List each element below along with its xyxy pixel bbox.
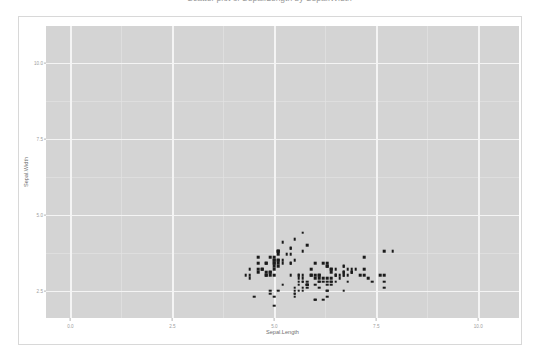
data-point bbox=[289, 247, 292, 250]
data-point bbox=[346, 280, 349, 283]
data-point bbox=[245, 274, 248, 277]
data-point bbox=[293, 286, 296, 289]
gridline-major-vertical bbox=[376, 26, 377, 318]
data-point bbox=[334, 280, 337, 283]
data-point bbox=[277, 289, 280, 292]
chart-title: Scatter plot of Sepal.Length by Sepal.Wi… bbox=[0, 0, 539, 7]
data-point bbox=[322, 298, 325, 301]
data-point bbox=[363, 256, 366, 259]
x-tick-mark bbox=[376, 318, 377, 321]
data-point bbox=[269, 289, 272, 292]
data-point bbox=[326, 289, 329, 292]
data-point bbox=[257, 271, 260, 274]
data-point bbox=[293, 259, 296, 262]
gridline-minor-horizontal bbox=[46, 101, 519, 102]
data-point bbox=[342, 289, 345, 292]
data-point bbox=[298, 280, 301, 283]
gridline-major-horizontal bbox=[46, 215, 519, 216]
data-point bbox=[298, 283, 301, 286]
y-tick-label: 10.0 bbox=[34, 60, 43, 65]
x-tick-mark bbox=[478, 318, 479, 321]
data-point bbox=[253, 295, 256, 298]
data-point bbox=[302, 232, 305, 235]
data-point bbox=[346, 268, 349, 271]
data-point bbox=[326, 262, 329, 265]
data-point bbox=[306, 286, 309, 289]
data-point bbox=[330, 280, 333, 283]
data-point bbox=[269, 292, 272, 295]
gridline-minor-horizontal bbox=[46, 253, 519, 254]
data-point bbox=[322, 262, 325, 265]
data-point bbox=[334, 274, 337, 277]
data-point bbox=[257, 262, 260, 265]
y-tick-label: 5.0 bbox=[37, 212, 43, 217]
data-point bbox=[273, 305, 276, 308]
data-point bbox=[338, 274, 341, 277]
data-point bbox=[273, 274, 276, 277]
x-axis-label: Sepal.Length bbox=[46, 329, 519, 335]
gridline-minor-vertical bbox=[427, 26, 428, 318]
data-point bbox=[273, 268, 276, 271]
data-point bbox=[293, 292, 296, 295]
data-point bbox=[314, 298, 317, 301]
gridline-major-horizontal bbox=[46, 291, 519, 292]
data-point bbox=[338, 277, 341, 280]
data-point bbox=[289, 262, 292, 265]
data-point bbox=[285, 253, 288, 256]
data-point bbox=[269, 274, 272, 277]
data-point bbox=[302, 280, 305, 283]
gridline-major-vertical bbox=[478, 26, 479, 318]
data-point bbox=[306, 244, 309, 247]
gridline-major-horizontal bbox=[46, 63, 519, 64]
data-point bbox=[383, 250, 386, 253]
y-axis-label: Sepal.Width bbox=[20, 26, 32, 318]
data-point bbox=[289, 274, 292, 277]
data-point bbox=[293, 238, 296, 241]
data-point bbox=[261, 268, 264, 271]
gridline-minor-horizontal bbox=[46, 177, 519, 178]
data-point bbox=[346, 274, 349, 277]
data-point bbox=[314, 283, 317, 286]
data-point bbox=[334, 268, 337, 271]
data-point bbox=[355, 268, 358, 271]
y-tick-mark bbox=[44, 214, 47, 215]
data-point bbox=[273, 295, 276, 298]
data-point bbox=[293, 295, 296, 298]
data-point bbox=[273, 259, 276, 262]
data-point bbox=[371, 280, 374, 283]
data-point bbox=[318, 286, 321, 289]
plot-panel bbox=[46, 26, 519, 318]
data-point bbox=[314, 262, 317, 265]
data-point bbox=[293, 289, 296, 292]
data-point bbox=[302, 250, 305, 253]
data-point bbox=[326, 295, 329, 298]
data-point bbox=[277, 265, 280, 268]
data-point bbox=[310, 274, 313, 277]
data-point bbox=[379, 274, 382, 277]
y-tick-mark bbox=[44, 138, 47, 139]
data-point bbox=[277, 250, 280, 253]
data-point bbox=[265, 274, 268, 277]
data-point bbox=[298, 289, 301, 292]
data-point bbox=[302, 289, 305, 292]
data-point bbox=[310, 268, 313, 271]
data-point bbox=[277, 262, 280, 265]
data-point bbox=[281, 262, 284, 265]
data-point bbox=[314, 274, 317, 277]
data-point bbox=[281, 283, 284, 286]
x-tick-mark bbox=[70, 318, 71, 321]
data-point bbox=[269, 256, 272, 259]
data-point bbox=[359, 274, 362, 277]
data-point bbox=[306, 283, 309, 286]
data-point bbox=[322, 280, 325, 283]
data-point bbox=[342, 274, 345, 277]
data-point bbox=[363, 274, 366, 277]
data-point bbox=[257, 268, 260, 271]
data-point bbox=[318, 274, 321, 277]
x-tick-mark bbox=[172, 318, 173, 321]
data-point bbox=[277, 253, 280, 256]
y-tick-mark bbox=[44, 62, 47, 63]
data-point bbox=[281, 241, 284, 244]
y-tick-mark bbox=[44, 290, 47, 291]
data-point bbox=[383, 274, 386, 277]
